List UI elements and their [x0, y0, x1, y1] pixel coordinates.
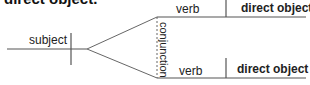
conjunction-label: conjunction [158, 22, 170, 78]
fork-lower [87, 49, 157, 78]
top-verb-label: verb [176, 2, 199, 16]
fork-upper [87, 17, 157, 49]
top-object-label: direct object [241, 1, 310, 15]
subject-label: subject [29, 33, 67, 47]
bottom-object-label: direct object [237, 62, 308, 76]
bottom-verb-label: verb [179, 64, 202, 78]
